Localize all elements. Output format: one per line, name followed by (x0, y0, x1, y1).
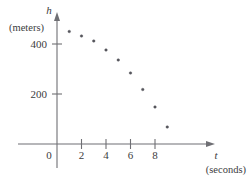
x-tick-label-8: 8 (152, 149, 158, 161)
data-point (129, 72, 132, 75)
data-point (68, 30, 71, 33)
x-axis-unit-label: (seconds) (206, 164, 247, 176)
y-axis-variable-label: h (46, 4, 52, 16)
x-tick-label-2: 2 (79, 149, 85, 161)
origin-label: 0 (46, 149, 52, 161)
data-point (80, 35, 83, 38)
y-tick-label-400: 400 (31, 38, 48, 50)
data-point (117, 59, 120, 62)
y-tick-label-200: 200 (31, 88, 48, 100)
x-axis-variable-label: t (214, 149, 218, 161)
data-point (141, 88, 144, 91)
scatter-plot-figure: 400 200 0 2 4 6 8 h (meters) t (seconds) (0, 0, 250, 179)
data-point (105, 49, 108, 52)
data-point (166, 126, 169, 129)
data-point (154, 106, 157, 109)
data-point (92, 40, 95, 43)
data-point-layer (68, 30, 169, 128)
x-tick-label-4: 4 (103, 149, 109, 161)
x-axis-arrow-icon (206, 141, 215, 147)
y-axis-arrow-icon (54, 12, 60, 21)
y-axis-unit-label: (meters) (9, 22, 44, 34)
chart-canvas: 400 200 0 2 4 6 8 h (meters) t (seconds) (0, 0, 250, 179)
x-tick-label-6: 6 (128, 149, 134, 161)
